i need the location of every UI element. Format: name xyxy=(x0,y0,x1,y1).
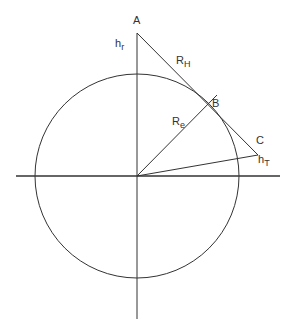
label-A: A xyxy=(133,14,141,26)
label-C: C xyxy=(256,134,264,146)
horizon-geometry-diagram: A B C hr RH Re hT xyxy=(0,0,290,333)
label-Re: Re xyxy=(172,115,185,130)
tangent-line-RH xyxy=(137,33,258,155)
label-hT: hT xyxy=(258,153,270,168)
label-B: B xyxy=(212,97,219,109)
label-hr: hr xyxy=(115,37,124,52)
label-RH: RH xyxy=(176,54,190,69)
